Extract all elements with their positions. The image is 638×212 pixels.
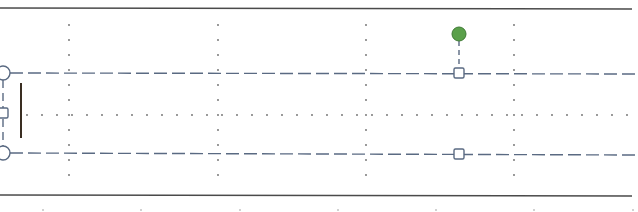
grid-dot [161,114,163,116]
grid-dot [401,114,403,116]
grid-dot [365,144,367,146]
grid-dot [513,174,515,176]
ruler-tick [632,209,634,211]
grid-dot [68,39,70,41]
grid-dot [217,159,219,161]
grid-dot [146,114,148,116]
top-middle-handle-icon[interactable] [454,68,464,78]
grid-dot [221,114,223,116]
grid-dot [68,129,70,131]
selection-outline-bottom[interactable] [10,153,638,155]
grid-dot [461,114,463,116]
rotation-handle-icon[interactable] [452,27,466,41]
grid-dot [513,129,515,131]
grid-dot [513,99,515,101]
grid-dot [365,99,367,101]
grid-dot [386,114,388,116]
grid-dot [281,114,283,116]
grid-dot [68,144,70,146]
text-box-selection[interactable] [0,27,638,160]
grid-dot [217,174,219,176]
grid-dot [217,114,219,116]
grid-dot [68,24,70,26]
grid-dot [217,84,219,86]
grid-dot [611,114,613,116]
grid-dot [446,114,448,116]
grid-dot [365,69,367,71]
grid-dot [217,39,219,41]
grid-dot [68,54,70,56]
grid-dot [217,144,219,146]
grid-dot [416,114,418,116]
grid-dot [365,84,367,86]
grid-dot [68,159,70,161]
grid-dot [68,99,70,101]
grid-dot [491,114,493,116]
ruler-tick [42,209,44,211]
grid-dot [371,114,373,116]
document-canvas[interactable] [0,0,638,212]
page-border-bottom [0,195,632,196]
grid-dot [251,114,253,116]
grid-dot [365,159,367,161]
grid-dot [326,114,328,116]
bottom-left-corner-handle-icon[interactable] [0,146,10,160]
grid-dot [506,114,508,116]
grid-dot [311,114,313,116]
grid-dot [217,129,219,131]
grid-dot [296,114,298,116]
grid-dot [365,174,367,176]
grid-dot [431,114,433,116]
grid-dot [266,114,268,116]
grid-dot [513,24,515,26]
grid-dot [365,54,367,56]
grid-dot [26,114,28,116]
grid-dot [86,114,88,116]
grid-dot [581,114,583,116]
gridlines [26,24,628,176]
top-left-corner-handle-icon[interactable] [0,66,10,80]
ruler-ticks [42,209,634,211]
grid-dot [626,114,628,116]
grid-dot [365,24,367,26]
grid-dot [217,69,219,71]
grid-dot [513,114,515,116]
ruler-tick [533,209,535,211]
grid-dot [513,54,515,56]
bottom-middle-handle-icon[interactable] [454,149,464,159]
ruler-tick [140,209,142,211]
grid-dot [513,69,515,71]
selection-outline-top[interactable] [10,73,638,74]
grid-dot [217,99,219,101]
grid-dot [596,114,598,116]
grid-dot [236,114,238,116]
ruler-tick [337,209,339,211]
grid-dot [131,114,133,116]
grid-dot [356,114,358,116]
grid-dot [513,84,515,86]
ruler-tick [239,209,241,211]
ruler-tick [435,209,437,211]
grid-dot [551,114,553,116]
grid-dot [365,39,367,41]
grid-dot [217,54,219,56]
grid-dot [101,114,103,116]
grid-dot [71,114,73,116]
grid-dot [68,114,70,116]
grid-dot [513,144,515,146]
grid-dot [365,129,367,131]
grid-dot [68,84,70,86]
page-border-top [0,8,632,9]
middle-left-handle-icon[interactable] [0,108,8,118]
grid-dot [176,114,178,116]
grid-dot [365,114,367,116]
grid-dot [513,39,515,41]
grid-dot [116,114,118,116]
grid-dot [341,114,343,116]
grid-dot [68,69,70,71]
grid-dot [68,174,70,176]
grid-dot [476,114,478,116]
grid-dot [206,114,208,116]
grid-dot [521,114,523,116]
grid-dot [566,114,568,116]
